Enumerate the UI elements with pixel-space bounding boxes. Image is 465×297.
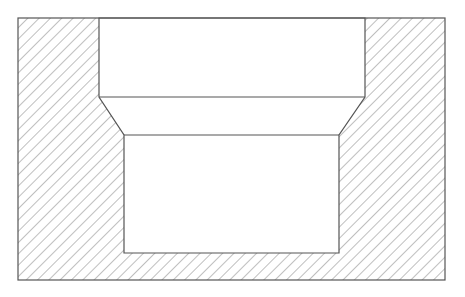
sectional-drawing	[0, 0, 465, 297]
